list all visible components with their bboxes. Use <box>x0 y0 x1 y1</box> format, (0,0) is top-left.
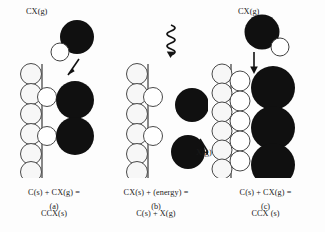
panel-b: CX(s) + (energy) = C(s) + X(g) (b) <box>104 0 208 232</box>
heteroatom-white <box>51 43 69 61</box>
panel-b-letter: (b) <box>104 202 208 211</box>
energy-squiggle-icon <box>167 25 175 58</box>
panel-b-drawing <box>104 0 208 178</box>
panel-a-letter: (a) <box>0 202 108 211</box>
gas-species-label-c: CX(g) <box>238 7 259 16</box>
down-arrow-c <box>250 52 258 74</box>
adsorbed-carbon-atoms-a <box>56 81 94 155</box>
free-carbon-atom-upper <box>175 88 208 122</box>
panel-b-caption-line1: CX(s) + (energy) = <box>104 188 208 198</box>
panel-c: C(s) + CX(g) = CCX (s) (c) <box>206 0 325 232</box>
panel-a-drawing <box>0 0 108 178</box>
panel-c-drawing <box>206 0 325 178</box>
panel-c-caption-line1: C(s) + CX(g) = <box>206 188 325 198</box>
free-cx-molecule-a <box>51 20 94 61</box>
down-left-arrow-a <box>68 59 79 75</box>
heteroatom-white <box>271 38 289 56</box>
surface-left-column-c <box>212 64 232 178</box>
free-cx-molecule-c <box>245 15 290 57</box>
surface-left-column-a <box>21 64 42 179</box>
panel-c-letter: (c) <box>206 202 325 211</box>
gas-species-label-b: X(g) <box>196 148 212 157</box>
surface-second-column-c <box>230 71 250 171</box>
deposited-carbon-layer-c <box>251 66 295 178</box>
reaction-mechanism-figure: CX(g) <box>0 0 325 232</box>
panel-a: CX(g) <box>0 0 108 232</box>
surface-left-column-b <box>127 64 148 179</box>
panel-a-caption-line1: C(s) + CX(g) = <box>0 188 108 198</box>
